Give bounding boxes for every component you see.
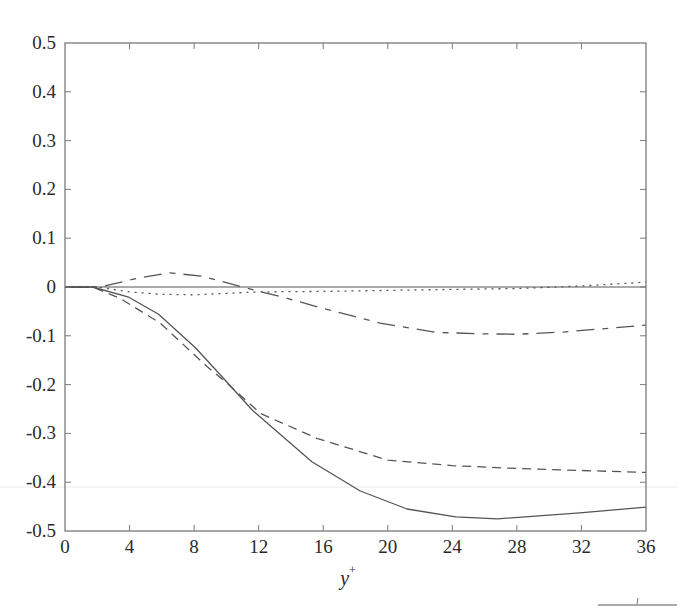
- x-tick-label: 16: [314, 536, 333, 557]
- x-axis-label: y+: [338, 563, 356, 590]
- cropped-overline-fragment: [598, 598, 677, 605]
- x-tick-label: 4: [125, 536, 135, 557]
- x-tick-label: 24: [443, 536, 463, 557]
- y-tick-label: -0.2: [26, 374, 56, 395]
- x-tick-label: 32: [572, 536, 591, 557]
- x-axis-label-superscript: +: [349, 563, 356, 577]
- y-tick-label: -0.1: [26, 325, 56, 346]
- series-dotted-line: [65, 282, 646, 295]
- y-tick-label: -0.4: [26, 471, 57, 492]
- line-chart: 04812162024283236 0.50.40.30.20.10-0.1-0…: [0, 0, 677, 613]
- x-tick-label: 36: [637, 536, 656, 557]
- y-tick-label: 0.5: [32, 32, 56, 53]
- x-tick-label: 8: [189, 536, 199, 557]
- x-tick-label: 12: [249, 536, 268, 557]
- x-tick-labels: 04812162024283236: [60, 536, 655, 557]
- x-axis-label-main: y: [338, 567, 349, 590]
- series-solid-line: [65, 287, 646, 519]
- y-tick-label: 0: [47, 276, 57, 297]
- x-tick-label: 0: [60, 536, 70, 557]
- y-tick-label: 0.1: [32, 227, 56, 248]
- y-tick-label: 0.4: [32, 81, 56, 102]
- y-tick-label: -0.5: [26, 520, 56, 541]
- y-tick-label: 0.3: [32, 130, 56, 151]
- y-tick-labels: 0.50.40.30.20.10-0.1-0.2-0.3-0.4-0.5: [26, 32, 57, 541]
- x-tick-label: 20: [378, 536, 397, 557]
- y-tick-label: -0.3: [26, 422, 56, 443]
- series-dash-dot-line: [65, 273, 646, 335]
- axes: [65, 43, 646, 531]
- series-dashed-line: [65, 287, 646, 472]
- x-tick-label: 28: [507, 536, 526, 557]
- series-layer: [65, 273, 646, 519]
- y-tick-label: 0.2: [32, 178, 56, 199]
